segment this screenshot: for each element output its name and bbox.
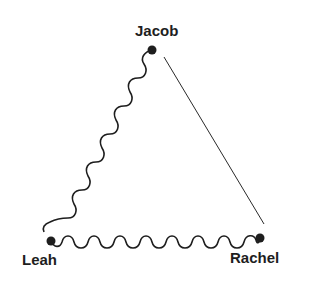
node-label-leah: Leah: [22, 252, 57, 267]
edge-jacob-leah-wavy: [43, 50, 152, 232]
node-label-rachel: Rachel: [230, 250, 279, 265]
node-label-jacob: Jacob: [135, 23, 178, 38]
node-dot-jacob: [148, 46, 157, 55]
node-dot-rachel: [256, 234, 265, 243]
relationship-diagram: [0, 0, 309, 288]
edge-jacob-rachel-straight: [164, 57, 264, 224]
edge-leah-rachel-wavy: [51, 236, 260, 248]
node-dot-leah: [47, 237, 56, 246]
